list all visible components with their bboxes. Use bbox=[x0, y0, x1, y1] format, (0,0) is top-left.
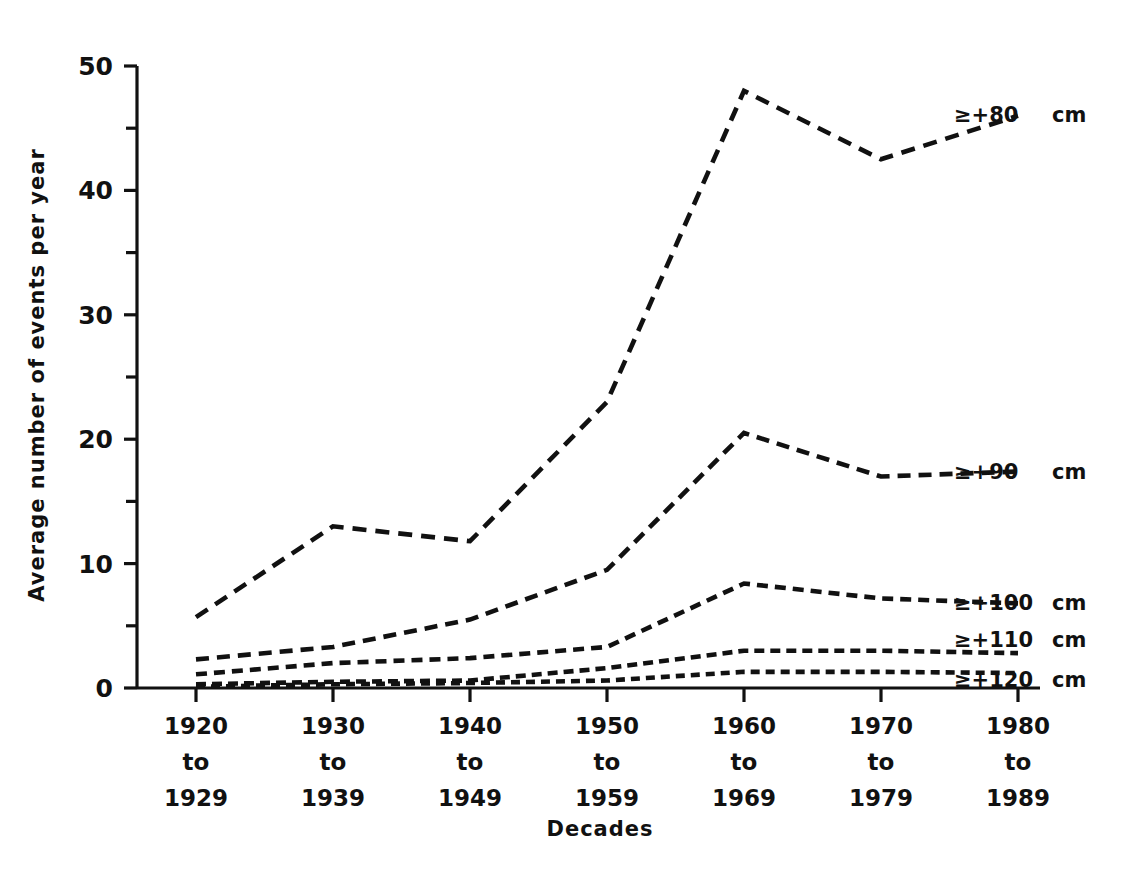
series-label-5: ≥+120 bbox=[954, 668, 1033, 692]
x-axis-tick-label: 1959 bbox=[575, 785, 639, 811]
x-axis-tick-label: 1940 bbox=[438, 713, 502, 739]
chart-figure: 01020304050 ≥+80cm≥+90cm≥+100cm≥+110cm≥+… bbox=[0, 0, 1126, 873]
x-axis-tick-label: to bbox=[320, 749, 347, 775]
series-label-2: ≥+90 bbox=[954, 460, 1018, 484]
chart-background bbox=[0, 0, 1126, 873]
x-axis-tick-label: 1950 bbox=[575, 713, 639, 739]
y-axis-title: Average number of events per year bbox=[25, 148, 49, 602]
figure-page: CASE HISTORIES 01020304050 ≥+80cm≥+90cm≥… bbox=[0, 0, 1126, 873]
y-axis-tick-label: 20 bbox=[78, 425, 113, 454]
x-axis-tick-label: 1960 bbox=[712, 713, 776, 739]
line-chart: 01020304050 ≥+80cm≥+90cm≥+100cm≥+110cm≥+… bbox=[0, 0, 1126, 873]
x-axis-tick-label: 1930 bbox=[301, 713, 365, 739]
x-axis-tick-label: 1939 bbox=[301, 785, 365, 811]
series-unit-5: cm bbox=[1052, 668, 1086, 692]
x-axis-tick-label: 1920 bbox=[164, 713, 228, 739]
y-axis-tick-label: 0 bbox=[96, 674, 113, 703]
x-axis-tick-label: to bbox=[868, 749, 895, 775]
x-axis-tick-label: 1969 bbox=[712, 785, 776, 811]
x-axis-tick-label: 1929 bbox=[164, 785, 228, 811]
series-unit-3: cm bbox=[1052, 591, 1086, 615]
x-axis-tick-label: 1980 bbox=[986, 713, 1050, 739]
series-label-1: ≥+80 bbox=[954, 103, 1018, 127]
x-axis-title: Decades bbox=[546, 817, 653, 841]
series-label-3: ≥+100 bbox=[954, 591, 1033, 615]
y-axis-tick-label: 30 bbox=[78, 301, 113, 330]
y-axis-tick-label: 50 bbox=[78, 52, 113, 81]
x-axis-tick-label: to bbox=[1005, 749, 1032, 775]
x-axis-tick-label: 1989 bbox=[986, 785, 1050, 811]
x-axis-tick-label: 1949 bbox=[438, 785, 502, 811]
x-axis-tick-label: to bbox=[594, 749, 621, 775]
x-axis-tick-label: to bbox=[457, 749, 484, 775]
x-axis-tick-label: 1979 bbox=[849, 785, 913, 811]
series-unit-4: cm bbox=[1052, 628, 1086, 652]
x-axis-tick-label: to bbox=[731, 749, 758, 775]
series-label-4: ≥+110 bbox=[954, 628, 1033, 652]
y-axis-tick-label: 40 bbox=[78, 176, 113, 205]
y-axis-tick-label: 10 bbox=[78, 550, 113, 579]
x-axis-tick-label: 1970 bbox=[849, 713, 913, 739]
series-unit-1: cm bbox=[1052, 103, 1086, 127]
series-unit-2: cm bbox=[1052, 460, 1086, 484]
x-axis-tick-label: to bbox=[183, 749, 210, 775]
